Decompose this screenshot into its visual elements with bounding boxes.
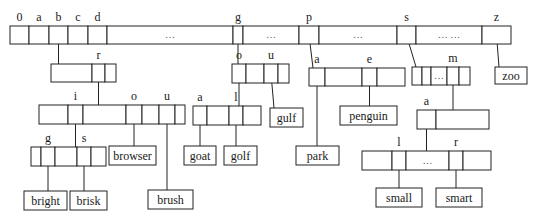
node-cell-l <box>229 106 243 125</box>
trie-node-bri: gs <box>31 131 106 166</box>
node-cell <box>422 67 431 85</box>
cell-label: d <box>95 10 101 24</box>
node-cell <box>436 110 489 129</box>
node-cell <box>278 64 289 83</box>
trie-node-g: ou <box>232 48 289 83</box>
node-cell <box>51 64 92 82</box>
node-cell <box>412 67 422 85</box>
node-cell <box>175 105 185 124</box>
node-cell <box>91 147 106 166</box>
node-cell-0 <box>10 26 29 44</box>
cell-label: a <box>314 52 320 66</box>
cell-label: r <box>454 135 458 149</box>
leaf-park: park <box>296 146 339 165</box>
node-cell-o <box>126 105 142 124</box>
node-cell-r <box>92 64 105 82</box>
node-cell <box>325 68 362 86</box>
cell-label: a <box>424 94 430 108</box>
node-cell-a <box>29 26 49 44</box>
trie-node-go: al <box>193 90 261 125</box>
cell-label: o <box>236 48 242 62</box>
cell-label: e <box>367 52 372 66</box>
leaf-word: goat <box>190 149 211 163</box>
node-cell <box>243 106 261 125</box>
ellipsis: … … <box>438 29 461 40</box>
node-cell-p <box>299 26 319 44</box>
leaf-word: penguin <box>349 109 388 123</box>
node-cell <box>207 106 229 125</box>
node-cell-s <box>397 26 416 44</box>
leaf-word: zoo <box>502 69 519 83</box>
cell-label: a <box>197 90 203 104</box>
node-cell-r <box>449 151 463 170</box>
node-layer: 0abcd…g…p…s… …zriougsoualae…mal…r <box>10 10 511 170</box>
leaf-penguin: penguin <box>340 106 397 125</box>
node-cell-s <box>77 147 91 166</box>
node-cell-g <box>233 26 243 44</box>
ellipsis: … <box>266 29 276 40</box>
leaf-goat: goat <box>184 146 216 165</box>
cell-label: a <box>36 10 42 24</box>
leaf-layer: brightbriskbrowserbrushgoatgolfgulfparkp… <box>24 67 527 210</box>
leaf-word: bright <box>31 194 60 208</box>
node-cell-m <box>447 67 459 85</box>
trie-canvas: 0abcd…g…p…s… …zriougsoualae…mal…r bright… <box>0 0 552 223</box>
ellipsis: … <box>423 155 433 166</box>
node-cell-a <box>417 110 436 129</box>
leaf-small: small <box>376 188 422 207</box>
node-cell-u <box>264 64 278 83</box>
node-cell <box>246 64 264 83</box>
node-cell-a <box>309 68 325 86</box>
node-cell <box>83 105 126 124</box>
leaf-bright: bright <box>24 191 67 210</box>
node-cell-e <box>362 68 377 86</box>
node-cell-d <box>88 26 107 44</box>
leaf-word: golf <box>231 149 250 163</box>
node-cell <box>377 68 405 86</box>
node-cell-g <box>41 147 55 166</box>
leaf-gulf: gulf <box>270 108 303 127</box>
leaf-word: brisk <box>77 194 101 208</box>
leaf-zoo: zoo <box>495 67 527 84</box>
trie-node-p: ae <box>309 52 405 86</box>
leaf-brisk: brisk <box>70 191 107 210</box>
node-cell-b <box>49 26 68 44</box>
node-cell <box>31 147 41 166</box>
cell-label: p <box>306 10 312 24</box>
trie-node-b: r <box>51 48 116 82</box>
leaf-word: park <box>307 149 328 163</box>
node-cell <box>39 105 68 124</box>
cell-label: r <box>97 48 101 62</box>
node-cell <box>362 151 392 170</box>
leaf-word: gulf <box>277 111 296 125</box>
leaf-golf: golf <box>224 146 257 165</box>
cell-label: m <box>448 51 458 65</box>
ellipsis: … <box>165 29 175 40</box>
leaf-word: smart <box>446 191 473 205</box>
trie-node-s: …m <box>412 51 470 85</box>
cell-label: u <box>268 48 274 62</box>
ellipsis: … <box>353 29 363 40</box>
ellipsis: … <box>434 70 444 81</box>
node-cell-c <box>68 26 88 44</box>
trie-node-br: iou <box>39 89 185 124</box>
node-cell <box>142 105 159 124</box>
node-cell-i <box>68 105 83 124</box>
leaf-smart: smart <box>436 188 482 207</box>
leaf-browser: browser <box>109 146 156 165</box>
trie-node-root: 0abcd…g…p…s… …z <box>10 10 511 44</box>
cell-label: g <box>235 10 241 24</box>
cell-label: s <box>82 131 87 145</box>
leaf-word: small <box>386 191 413 205</box>
cell-label: g <box>45 131 51 145</box>
cell-label: c <box>75 10 80 24</box>
node-cell <box>55 147 77 166</box>
node-cell-o <box>232 64 246 83</box>
node-cell <box>463 151 491 170</box>
trie-diagram: 0abcd…g…p…s… …zriougsoualae…mal…r bright… <box>0 0 552 223</box>
leaf-word: brush <box>157 193 184 207</box>
node-cell <box>105 64 116 82</box>
cell-label: u <box>164 89 170 103</box>
cell-label: i <box>74 89 78 103</box>
cell-label: l <box>234 90 238 104</box>
